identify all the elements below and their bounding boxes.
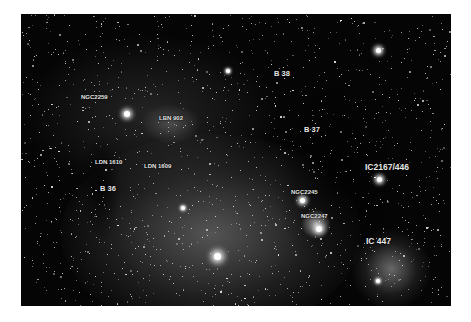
- label-ldn1610: LDN 1610: [95, 159, 122, 165]
- label-ngc2247: NGC2247: [301, 213, 328, 219]
- nebula-photo: NGC2259 LBN 902 B 38 B 37 LDN 1610 LDN 1…: [21, 14, 451, 306]
- label-ngc2245: NGC2245: [291, 189, 318, 195]
- bright-star: [214, 253, 221, 260]
- bright-star: [377, 177, 382, 182]
- bright-star: [300, 198, 305, 203]
- bright-star: [181, 206, 185, 210]
- label-lbn902: LBN 902: [159, 115, 183, 121]
- upper-glow: [21, 34, 281, 194]
- label-b38: B 38: [274, 70, 290, 78]
- label-b36: B 36: [100, 185, 116, 193]
- label-b37: B 37: [304, 126, 320, 134]
- label-ic447: IC 447: [366, 237, 391, 246]
- label-ldn1609: LDN 1609: [144, 163, 171, 169]
- bright-star: [376, 279, 380, 283]
- bright-star: [124, 111, 130, 117]
- bright-star: [376, 48, 381, 53]
- bright-star: [316, 226, 322, 232]
- label-ngc2259: NGC2259: [81, 94, 108, 100]
- bright-star: [226, 69, 230, 73]
- label-ic2167: IC2167/446: [365, 163, 409, 172]
